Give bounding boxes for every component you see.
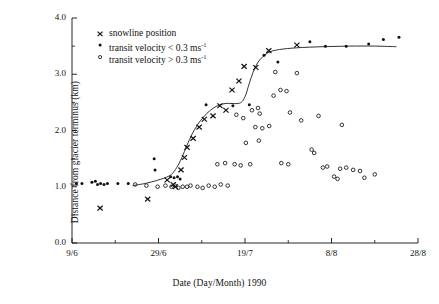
point-transit-fast <box>280 161 284 165</box>
point-transit-slow <box>90 181 93 184</box>
point-transit-slow <box>103 183 106 186</box>
point-transit-fast <box>321 166 325 170</box>
point-transit-fast <box>235 113 239 117</box>
point-transit-slow <box>80 182 83 185</box>
point-transit-fast <box>340 123 344 127</box>
point-snowline-position <box>210 113 215 118</box>
point-transit-slow <box>345 45 348 48</box>
y-tick-label: 3.0 <box>40 68 66 78</box>
point-transit-fast <box>286 162 290 166</box>
point-transit-slow <box>154 168 157 171</box>
fitted-curve <box>133 46 397 186</box>
point-transit-fast <box>248 162 252 166</box>
point-snowline-position <box>242 64 247 69</box>
point-transit-slow <box>276 60 279 63</box>
x-tick-label: 28/8 <box>404 248 432 258</box>
point-transit-slow <box>94 180 97 183</box>
y-tick-label: 4.0 <box>40 12 66 22</box>
point-transit-fast <box>261 126 265 130</box>
point-snowline-position <box>236 79 241 84</box>
x-tick-label: 8/8 <box>318 248 346 258</box>
point-transit-fast <box>226 184 230 188</box>
point-transit-fast <box>336 177 340 181</box>
x-tick-label: 19/7 <box>231 248 259 258</box>
point-transit-fast <box>254 125 258 129</box>
point-transit-fast <box>250 108 254 112</box>
point-transit-fast <box>317 114 321 118</box>
point-transit-fast <box>299 119 303 123</box>
point-snowline-position <box>165 178 170 183</box>
point-transit-slow <box>116 182 119 185</box>
point-transit-slow <box>397 36 400 39</box>
point-snowline-position <box>202 117 207 122</box>
point-transit-fast <box>373 173 377 177</box>
point-transit-slow <box>179 177 182 180</box>
point-transit-fast <box>164 184 168 188</box>
point-transit-slow <box>308 40 311 43</box>
point-transit-fast <box>288 111 292 115</box>
x-tick-label: 29/6 <box>145 248 173 258</box>
plot-area <box>0 0 439 304</box>
point-transit-fast <box>285 89 289 93</box>
point-transit-fast <box>233 162 237 166</box>
point-transit-slow <box>173 176 176 179</box>
point-transit-fast <box>241 116 245 120</box>
point-transit-fast <box>181 185 185 189</box>
point-transit-slow <box>99 182 102 185</box>
point-snowline-position <box>294 43 299 48</box>
point-transit-fast <box>256 106 260 110</box>
point-transit-slow <box>106 182 109 185</box>
point-transit-slow <box>127 182 130 185</box>
point-transit-fast <box>201 186 205 190</box>
y-tick-label: 0.0 <box>40 237 66 247</box>
point-transit-fast <box>213 185 217 189</box>
point-transit-fast <box>273 70 277 74</box>
point-transit-fast <box>239 164 243 168</box>
point-transit-fast <box>272 94 276 98</box>
point-transit-slow <box>367 42 370 45</box>
point-transit-fast <box>344 166 348 170</box>
point-transit-fast <box>207 184 211 188</box>
point-transit-slow <box>248 103 251 106</box>
point-transit-fast <box>258 112 262 116</box>
point-transit-fast <box>295 71 299 75</box>
point-transit-slow <box>176 175 179 178</box>
point-transit-fast <box>196 185 200 189</box>
figure: Distance from glacier terminus (km) Date… <box>0 0 439 304</box>
point-transit-fast <box>358 169 362 173</box>
point-snowline-position <box>145 197 150 202</box>
point-transit-slow <box>96 183 99 186</box>
point-transit-fast <box>351 168 355 172</box>
y-tick-label: 1.0 <box>40 181 66 191</box>
point-transit-fast <box>363 176 367 180</box>
point-transit-fast <box>156 185 160 189</box>
point-transit-fast <box>312 151 316 155</box>
point-transit-slow <box>231 104 234 107</box>
point-transit-fast <box>325 165 329 169</box>
point-transit-fast <box>133 183 137 187</box>
y-tick-label: 2.0 <box>40 125 66 135</box>
point-transit-slow <box>324 45 327 48</box>
point-transit-fast <box>310 148 314 152</box>
point-transit-slow <box>75 182 78 185</box>
point-transit-fast <box>189 184 193 188</box>
point-snowline-position <box>98 206 103 211</box>
point-snowline-position <box>178 167 183 172</box>
point-snowline-position <box>223 108 228 113</box>
point-snowline-position <box>197 125 202 130</box>
x-tick-label: 9/6 <box>58 248 86 258</box>
point-transit-fast <box>219 183 223 187</box>
point-transit-fast <box>216 162 220 166</box>
point-transit-slow <box>382 38 385 41</box>
point-transit-fast <box>332 175 336 179</box>
point-transit-fast <box>338 167 342 171</box>
point-transit-fast <box>145 184 149 188</box>
point-transit-slow <box>153 157 156 160</box>
point-transit-fast <box>279 88 283 92</box>
point-snowline-position <box>229 88 234 93</box>
point-snowline-position <box>182 155 187 160</box>
data-points <box>75 36 401 211</box>
point-snowline-position <box>191 136 196 141</box>
point-transit-slow <box>205 103 208 106</box>
point-transit-fast <box>267 124 271 128</box>
